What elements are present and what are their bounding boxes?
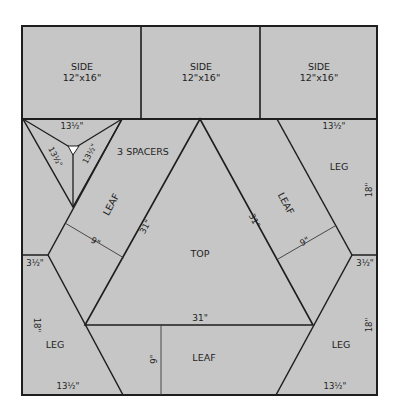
leg-lower-left-bottom: 13½" — [57, 381, 80, 391]
side-middle-name: SIDE — [190, 61, 212, 72]
top-base-dimension: 31" — [192, 313, 208, 323]
leg-lower-right-notch: 3½" — [356, 258, 374, 268]
side-left-name: SIDE — [71, 61, 93, 72]
leg-lower-left-side: 18" — [32, 318, 42, 333]
leg-upper-right-top: 13½" — [323, 121, 346, 131]
leaf-bottom-width: 9" — [149, 354, 159, 363]
leg-upper-right-side: 18" — [364, 183, 374, 198]
side-right-name: SIDE — [308, 61, 330, 72]
side-right-size: 12"x16" — [300, 72, 339, 83]
top-name: TOP — [189, 248, 209, 259]
side-left-size: 12"x16" — [63, 72, 102, 83]
spacer-top-dimension: 13½" — [61, 121, 84, 131]
leg-lower-right-name: LEG — [332, 339, 351, 350]
cutting-layout-diagram: SIDE 12"x16" SIDE 12"x16" SIDE 12"x16" 1… — [0, 0, 395, 414]
leg-lower-right-bottom: 13½" — [324, 381, 347, 391]
leaf-bottom-name: LEAF — [192, 352, 215, 363]
leg-lower-right-side: 18" — [364, 318, 374, 333]
side-middle-size: 12"x16" — [182, 72, 221, 83]
leg-lower-left-notch: 3½" — [26, 258, 44, 268]
leg-lower-left-name: LEG — [46, 339, 65, 350]
leg-upper-right-name: LEG — [330, 161, 349, 172]
spacers-label: 3 SPACERS — [117, 146, 169, 157]
